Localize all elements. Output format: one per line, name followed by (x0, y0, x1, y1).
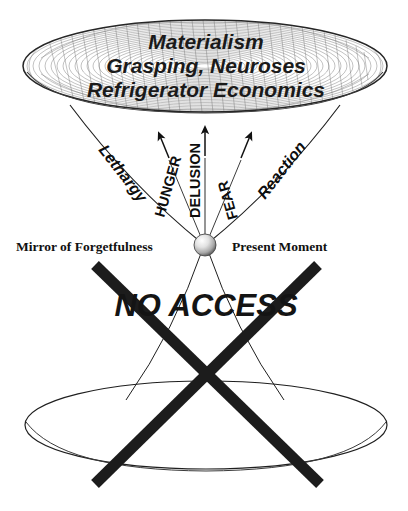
title-line-2: Grasping, Neuroses (106, 54, 306, 77)
title-line-1: Materialism (148, 30, 264, 53)
center-node-sphere (194, 234, 216, 256)
label-mirror-of-forgetfulness: Mirror of Forgetfulness (16, 239, 153, 254)
label-reaction: Reaction (254, 138, 309, 202)
label-lethargy: Lethargy (96, 141, 152, 206)
upward-arrows (160, 130, 250, 158)
hourglass-diagram-svg: Materialism Grasping, Neuroses Refrigera… (0, 0, 408, 511)
cone-curve-left (70, 105, 203, 244)
arrow-fear (241, 136, 250, 158)
diagram-canvas: Materialism Grasping, Neuroses Refrigera… (0, 0, 408, 511)
label-present-moment: Present Moment (232, 239, 328, 254)
lower-curve-right (207, 248, 284, 400)
title-line-3: Refrigerator Economics (87, 78, 325, 101)
label-no-access: NO ACCESS (114, 288, 297, 323)
label-delusion: DELUSION (187, 143, 203, 218)
bottom-ellipse (25, 381, 387, 471)
lower-curve-left (126, 248, 203, 400)
bottom-ellipse-rim (26, 422, 386, 471)
